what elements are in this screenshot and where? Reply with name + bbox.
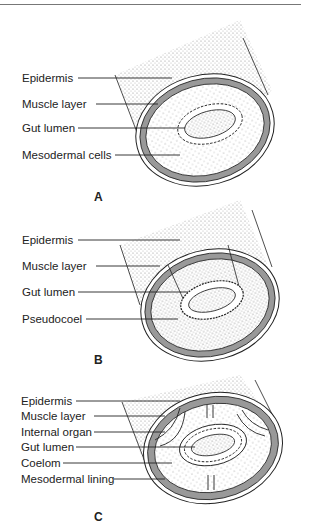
- label-epidermis-a: Epidermis: [22, 72, 73, 85]
- label-muscle-layer-a: Muscle layer: [22, 98, 87, 111]
- label-internal-organ-c: Internal organ: [21, 426, 92, 439]
- label-gut-lumen-b: Gut lumen: [22, 286, 75, 299]
- panel-letter-c: C: [94, 510, 103, 524]
- panel-a-acoelomate: [115, 20, 287, 201]
- label-epidermis-c: Epidermis: [21, 395, 72, 408]
- label-epidermis-b: Epidermis: [22, 234, 73, 247]
- label-gut-lumen-c: Gut lumen: [21, 441, 74, 454]
- panel-b-pseudocoelomate: [120, 200, 292, 376]
- panel-letter-a: A: [94, 190, 103, 204]
- label-pseudocoel-b: Pseudocoel: [22, 313, 82, 326]
- label-mesodermal-lining-c: Mesodermal lining: [21, 473, 114, 486]
- label-coelom-c: Coelom: [21, 457, 61, 470]
- label-muscle-layer-b: Muscle layer: [22, 260, 87, 273]
- label-gut-lumen-a: Gut lumen: [22, 122, 75, 135]
- label-mesodermal-cells-a: Mesodermal cells: [22, 149, 111, 162]
- panel-c-coelomate: [122, 375, 293, 516]
- label-muscle-layer-c: Muscle layer: [21, 410, 86, 423]
- panel-letter-b: B: [94, 353, 103, 367]
